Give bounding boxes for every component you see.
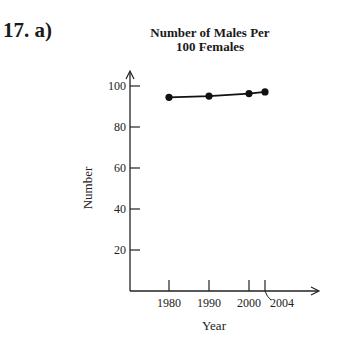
y-axis-label: Number [80, 166, 95, 209]
y-tick-label: 100 [108, 79, 126, 93]
x-tick-label: 1980 [157, 296, 181, 310]
data-series [165, 88, 268, 101]
x-tick-label: 2000 [237, 296, 261, 310]
data-point [205, 92, 212, 99]
x-tick-label: 2004 [270, 296, 294, 310]
y-tick-label: 80 [114, 120, 126, 134]
chart-canvas: 20406080100 1980199020002004 Number Year [0, 0, 340, 345]
y-tick-label: 40 [114, 202, 126, 216]
y-tick-label: 20 [114, 243, 126, 257]
y-ticks: 20406080100 [108, 79, 140, 257]
data-point [245, 90, 252, 97]
x-ticks: 1980199020002004 [157, 280, 294, 310]
data-point [165, 94, 172, 101]
y-tick-label: 60 [114, 161, 126, 175]
x-tick-label: 1990 [197, 296, 221, 310]
axes [126, 71, 319, 295]
x-axis-label: Year [202, 318, 227, 333]
data-point [261, 88, 268, 95]
